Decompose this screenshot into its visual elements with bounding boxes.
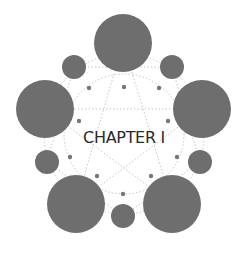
small-circle-left <box>35 150 59 174</box>
dot <box>149 174 153 178</box>
large-circle-bottom-left <box>47 175 105 233</box>
dot <box>166 119 170 123</box>
small-circle-top-left <box>62 55 86 79</box>
dot <box>77 119 81 123</box>
dot <box>157 86 161 90</box>
small-circle-bottom <box>111 204 135 228</box>
dot <box>175 155 179 159</box>
large-circle-right <box>173 80 231 138</box>
dot <box>87 86 91 90</box>
chapter-diagram: CHAPTER I <box>0 0 249 255</box>
large-circle-top <box>94 14 152 72</box>
chapter-title: CHAPTER I <box>83 128 165 147</box>
small-circle-top-right <box>160 55 184 79</box>
dot <box>68 155 72 159</box>
dot <box>121 192 125 196</box>
small-circle-right <box>188 150 212 174</box>
dot <box>95 174 99 178</box>
large-circle-left <box>16 80 74 138</box>
circles <box>16 14 231 233</box>
large-circle-bottom-right <box>143 175 201 233</box>
dot <box>122 85 126 89</box>
